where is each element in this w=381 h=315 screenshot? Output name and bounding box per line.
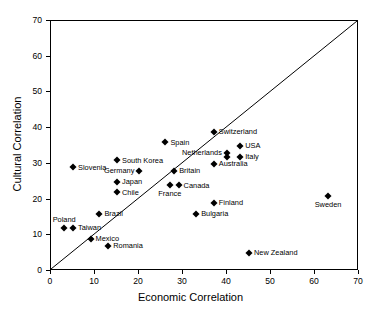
x-tick-mark <box>182 270 183 274</box>
x-tick-label: 40 <box>221 276 231 286</box>
data-point-label: Japan <box>122 178 142 185</box>
y-tick-mark <box>46 270 50 271</box>
x-tick-mark <box>270 270 271 274</box>
x-tick-mark <box>94 270 95 274</box>
plot-area: SwitzerlandSpainUSANetherlandsItalySouth… <box>50 20 358 270</box>
data-point-label: Spain <box>170 139 189 146</box>
data-point-label: USA <box>245 142 260 149</box>
x-tick-mark <box>226 270 227 274</box>
scatter-plot-figure: SwitzerlandSpainUSANetherlandsItalySouth… <box>0 0 381 315</box>
y-tick-label: 0 <box>16 265 42 275</box>
y-tick-mark <box>46 127 50 128</box>
y-tick-mark <box>46 163 50 164</box>
x-tick-label: 60 <box>309 276 319 286</box>
data-point-label: Australia <box>219 160 248 167</box>
data-point-label: Brazil <box>104 210 122 217</box>
x-tick-label: 50 <box>265 276 275 286</box>
data-point-label: New Zealand <box>254 249 298 256</box>
y-tick-mark <box>46 199 50 200</box>
x-tick-label: 10 <box>89 276 99 286</box>
data-point-label: Taiwan <box>78 224 101 231</box>
data-point-label: Sweden <box>315 201 342 208</box>
data-point-label: Switzerland <box>219 128 257 135</box>
x-tick-label: 20 <box>133 276 143 286</box>
data-point-label: France <box>158 190 181 197</box>
x-tick-label: 30 <box>177 276 187 286</box>
y-tick-mark <box>46 56 50 57</box>
y-tick-label: 70 <box>16 15 42 25</box>
x-tick-mark <box>314 270 315 274</box>
x-tick-mark <box>50 270 51 274</box>
y-axis-title: Cultural Correlation <box>11 59 23 229</box>
data-point-label: Britain <box>179 167 200 174</box>
y-tick-mark <box>46 234 50 235</box>
data-point-label: Canada <box>184 182 210 189</box>
data-point-label: Finland <box>219 199 243 206</box>
data-point-label: Germany <box>104 167 134 174</box>
data-point-label: Chile <box>122 189 139 196</box>
x-tick-label: 70 <box>353 276 363 286</box>
x-tick-label: 0 <box>48 276 53 286</box>
data-point-label: South Korea <box>122 157 163 164</box>
y-tick-label: 10 <box>16 229 42 239</box>
y-tick-mark <box>46 20 50 21</box>
x-axis-title: Economic Correlation <box>0 291 381 303</box>
y-tick-mark <box>46 91 50 92</box>
data-point-label: Romania <box>113 242 143 249</box>
x-tick-mark <box>358 270 359 274</box>
data-point-label: Slovenia <box>78 164 106 171</box>
x-tick-mark <box>138 270 139 274</box>
data-point-label: Bulgaria <box>201 210 228 217</box>
data-point-label: Netherlands <box>182 149 222 156</box>
data-point-label: Poland <box>53 216 76 223</box>
